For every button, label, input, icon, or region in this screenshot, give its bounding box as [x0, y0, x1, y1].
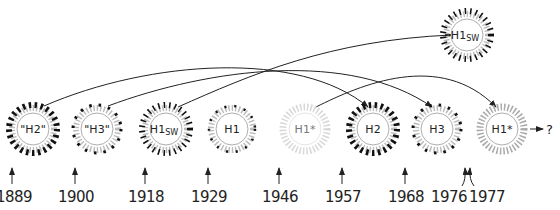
year-label-1946: 1946 [262, 188, 298, 206]
virus-h3-1900: "H3" [73, 105, 121, 153]
virus-label: H1* [492, 123, 513, 136]
year-arrow-1976 [462, 168, 465, 186]
virus-h1sw-1976: H1SW [443, 11, 491, 59]
virus-label: H1* [295, 123, 316, 136]
virus-h3-1968: H3 [413, 105, 461, 153]
year-label-1918: 1918 [128, 188, 164, 206]
link-h1star-1946-to-1977 [316, 76, 496, 107]
year-arrows [12, 168, 474, 186]
influenza-timeline-diagram: "H2" "H3" H1SW H1 H1* H2 H3 [0, 0, 560, 210]
year-labels: 1889 1900 1918 1929 1946 1957 1968 1976 … [0, 188, 505, 206]
year-label-1889: 1889 [0, 188, 32, 206]
virus-h2-1957: H2 [349, 105, 397, 153]
year-label-1968: 1968 [388, 188, 424, 206]
year-label-1957: 1957 [325, 188, 361, 206]
virus-label: H1 [224, 123, 239, 136]
virus-label: "H3" [84, 123, 109, 136]
virus-label: H3 [429, 123, 444, 136]
virus-h1-1929: H1 [209, 106, 255, 152]
link-h3-1900-to-1968 [108, 71, 432, 107]
recycling-links [44, 35, 496, 107]
virus-h1sw-1918: H1SW [142, 105, 190, 153]
year-label-1977: 1977 [469, 188, 505, 206]
year-label-1929: 1929 [191, 188, 227, 206]
year-label-1976: 1976 [431, 188, 467, 206]
virus-label: "H2" [20, 123, 45, 136]
year-label-1900: 1900 [58, 188, 94, 206]
virus-label: H2 [365, 123, 380, 136]
unknown-future-label: ? [546, 122, 553, 137]
link-h2-1889-to-1957 [44, 68, 368, 107]
future-outcome: ? [530, 122, 553, 137]
virus-h2-1889: "H2" [9, 105, 57, 153]
year-arrow-1977 [470, 168, 474, 186]
virus-h1star-1977: H1* [480, 107, 524, 151]
virus-h1star-1946: H1* [283, 107, 327, 151]
